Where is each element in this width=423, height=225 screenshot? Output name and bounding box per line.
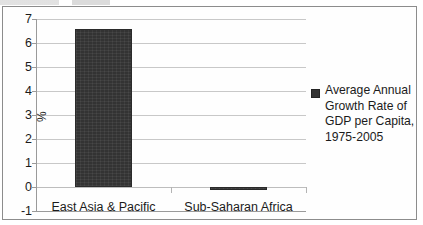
bar-1 [210,187,267,190]
legend-color-swatch [311,89,320,98]
y-tick-label-2: 2 [10,133,32,146]
y-tick-mark-6 [32,43,37,44]
category-label-1: Sub-Saharan Africa [159,201,319,214]
gridline-7 [36,19,306,20]
y-tick-label-0: 0 [10,181,32,194]
y-tick-mark-1 [32,163,37,164]
scan-artifact-streak [0,0,423,5]
bar-0 [75,29,132,187]
y-tick-mark-2 [32,139,37,140]
legend-line-1: Growth Rate of [325,99,415,115]
y-tick-mark-4 [32,91,37,92]
y-tick-label-6: 6 [10,37,32,50]
y-tick-label-4: 4 [10,85,32,98]
chart-container: 76543210-1 East Asia & PacificSub-Sahara… [2,6,417,220]
category-tick-0 [171,187,172,193]
y-tick-mark-0 [32,187,37,188]
plot-area: 76543210-1 East Asia & PacificSub-Sahara… [36,19,306,211]
y-axis-title: % [35,111,49,122]
y-tick-mark-5 [32,67,37,68]
category-tick-1 [306,187,307,193]
chart-legend: Average AnnualGrowth Rate ofGDP per Capi… [311,83,415,145]
y-tick-label-5: 5 [10,61,32,74]
y-tick-label-3: 3 [10,109,32,122]
legend-line-0: Average Annual [325,83,415,99]
legend-line-2: GDP per Capita, [325,114,415,130]
y-tick-label-7: 7 [10,13,32,26]
y-tick-label-1: 1 [10,157,32,170]
legend-label: Average AnnualGrowth Rate ofGDP per Capi… [325,83,415,145]
legend-line-3: 1975-2005 [325,130,415,146]
y-tick-mark-7 [32,19,37,20]
